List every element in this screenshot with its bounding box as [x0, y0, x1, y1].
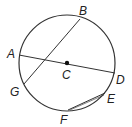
- label-B: B: [79, 4, 87, 18]
- chord-BG: [24, 19, 80, 84]
- label-E: E: [107, 92, 116, 106]
- label-D: D: [116, 73, 125, 87]
- label-G: G: [10, 85, 19, 99]
- label-F: F: [60, 113, 68, 127]
- label-C: C: [62, 68, 71, 82]
- chord-EF-inner: [70, 95, 104, 110]
- center-point: [65, 61, 69, 65]
- circle-diagram: A B C D E F G: [0, 0, 132, 127]
- label-A: A: [6, 47, 15, 61]
